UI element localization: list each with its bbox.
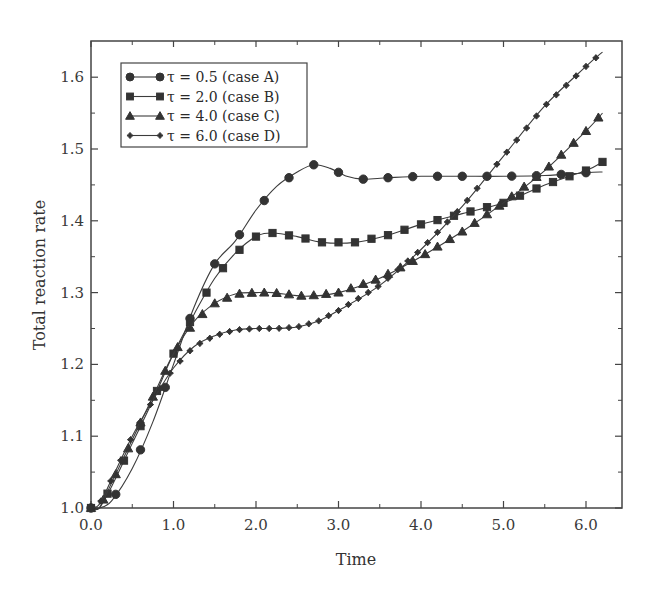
series-line [91,162,603,510]
x-tick-label: 5.0 [492,516,516,534]
star-marker [226,328,232,334]
circle-marker [359,175,367,183]
star-marker [296,323,302,329]
square-marker [368,235,375,242]
x-tick-label: 0.0 [79,516,103,534]
triangle-marker [322,289,331,297]
square-marker [127,93,134,100]
triangle-marker [297,291,306,299]
circle-marker [235,231,243,239]
star-marker [217,331,223,337]
legend-label: τ = 4.0 (case C) [167,108,280,124]
triangle-marker [309,291,318,299]
square-marker [203,289,210,296]
star-marker [286,324,292,330]
circle-marker [112,490,120,498]
square-marker [252,233,259,240]
circle-marker [211,260,219,268]
triangle-marker [458,227,467,235]
square-marker [285,232,292,239]
square-marker [302,235,309,242]
circle-marker [260,196,268,204]
square-marker [434,216,441,223]
y-tick-label: 1.6 [60,68,84,86]
x-tick-label: 3.0 [327,516,351,534]
x-tick-label: 4.0 [409,516,433,534]
star-marker [306,321,312,327]
y-tick-label: 1.0 [60,499,84,517]
square-marker [269,229,276,236]
circle-marker [126,73,134,81]
star-marker [335,307,341,313]
square-marker [335,239,342,246]
star-marker [256,325,262,331]
star-marker [276,325,282,331]
triangle-marker [223,293,232,301]
square-marker [417,221,424,228]
circle-marker [557,170,565,178]
square-marker [384,232,391,239]
triangle-marker [557,150,566,158]
x-tick-label: 6.0 [574,516,598,534]
series-c [86,113,603,511]
series-b [87,158,606,511]
circle-marker [310,161,318,169]
square-marker [533,185,540,192]
circle-marker [458,172,466,180]
circle-marker [409,172,417,180]
series-a [87,161,603,513]
circle-marker [508,172,516,180]
triangle-marker [470,218,479,226]
legend-label: τ = 2.0 (case B) [167,89,279,105]
star-marker [246,326,252,332]
series-line [91,165,603,509]
circle-marker [334,168,342,176]
star-marker [316,318,322,324]
square-marker [582,167,589,174]
star-marker [236,326,242,332]
y-tick-label: 1.5 [60,140,84,158]
square-marker [351,239,358,246]
triangle-marker [210,299,219,307]
legend-label: τ = 6.0 (case D) [167,128,280,144]
square-marker [467,208,474,215]
circle-marker [285,174,293,182]
circle-marker [136,446,144,454]
y-tick-label: 1.1 [60,427,84,445]
circle-marker [384,174,392,182]
circle-marker [156,73,164,81]
y-tick-label: 1.2 [60,355,84,373]
triangle-marker [520,182,529,190]
y-tick-label: 1.3 [60,284,84,302]
star-marker [266,325,272,331]
triangle-marker [507,192,516,200]
square-marker [566,173,573,180]
star-marker [325,313,331,319]
square-marker [157,93,164,100]
square-marker [219,265,226,272]
y-axis-title: Total reaction rate [30,200,49,351]
y-tick-label: 1.4 [60,212,84,230]
legend: τ = 0.5 (case A)τ = 2.0 (case B)τ = 4.0 … [121,63,307,147]
triangle-marker [421,250,430,258]
legend-label: τ = 0.5 (case A) [167,69,279,85]
square-marker [318,239,325,246]
circle-marker [433,172,441,180]
triangle-marker [433,242,442,250]
square-marker [401,226,408,233]
series-line [91,113,603,510]
square-marker [236,246,243,253]
square-marker [599,158,606,165]
x-axis-title: Time [336,550,376,569]
star-marker [207,335,213,341]
square-marker [549,178,556,185]
x-tick-label: 2.0 [244,516,268,534]
triangle-marker [445,235,454,243]
square-marker [516,192,523,199]
line-chart: 0.01.02.03.04.05.06.0 1.01.11.21.31.41.5… [0,0,654,596]
x-tick-label: 1.0 [162,516,186,534]
